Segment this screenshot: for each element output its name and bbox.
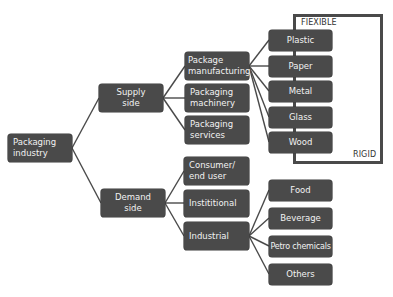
node-packaging-machinery: Packaging machinery [185, 84, 249, 112]
node-paper: Paper [269, 56, 332, 77]
node-food: Food [269, 180, 332, 201]
node-wood: Wood [269, 132, 332, 153]
node-institutional: Instititional [184, 190, 249, 217]
node-beverage: Beverage [269, 208, 332, 229]
node-others: Others [269, 264, 332, 285]
rigid-label: RIGID [353, 150, 376, 159]
node-glass: Glass [269, 107, 332, 128]
node-petro-chemicals: Petro chemicals [269, 236, 332, 257]
node-plastic: Plastic [269, 30, 332, 51]
node-supply-side: Supply side [99, 84, 163, 112]
node-packaging-services: Packaging services [185, 116, 249, 144]
node-package-manufacturing: Package manufacturing [185, 52, 249, 80]
packaging-industry-diagram: FIEXIBLE RIGID Packaging industry Supply… [0, 0, 393, 297]
node-consumer-end-user: Consumer/ end user [184, 157, 249, 185]
node-metal: Metal [269, 81, 332, 102]
node-packaging-industry: Packaging industry [8, 134, 72, 162]
node-demand-side: Demand side [101, 189, 165, 217]
flexible-label: FIEXIBLE [301, 18, 337, 27]
node-industrial: Industrial [184, 222, 249, 250]
